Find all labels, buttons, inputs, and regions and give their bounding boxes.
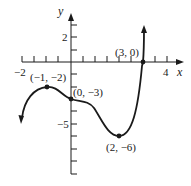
curve-left-arrow-icon [19, 115, 25, 124]
y-tick-label-neg5: −5 [57, 118, 69, 130]
y-axis-arrow-icon [68, 13, 74, 21]
point-label-2-neg6: (2, −6) [106, 141, 136, 154]
x-axis [22, 56, 184, 65]
point-label-3-0: (3, 0) [115, 46, 139, 59]
x-ticks [22, 56, 167, 62]
curve-right-arrow-icon [141, 25, 147, 33]
y-axis-label: y [57, 4, 64, 18]
x-axis-label: x [176, 65, 183, 79]
point-neg1-neg2 [45, 85, 50, 90]
point-2-neg6 [117, 134, 122, 139]
function-graph: y x −2 4 2 −5 (−1, −2) (0, −3) (2, −6) (… [0, 0, 191, 186]
x-tick-label-neg2: −2 [14, 66, 26, 78]
point-3-0 [141, 60, 146, 65]
y-tick-label-2: 2 [62, 31, 68, 43]
point-label-neg1-neg2: (−1, −2) [30, 71, 67, 84]
x-tick-label-4: 4 [163, 66, 169, 78]
point-label-0-neg3: (0, −3) [73, 86, 103, 99]
